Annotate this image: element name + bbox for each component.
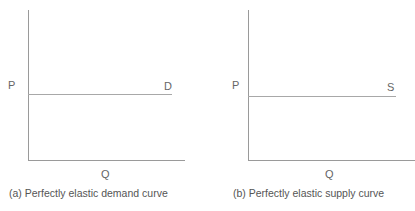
price-axis-label: P [8,80,15,91]
quantity-axis-label: Q [101,169,110,180]
supply-panel: P S Q (b) Perfectly elastic supply curve [207,0,415,211]
quantity-axis-label: Q [325,169,334,180]
demand-caption: (a) Perfectly elastic demand curve [9,188,168,199]
demand-curve-label: D [164,81,172,92]
price-axis-label: P [232,80,239,91]
supply-curve-label: S [387,82,394,93]
supply-plot [207,0,415,211]
supply-caption: (b) Perfectly elastic supply curve [233,188,384,199]
demand-panel: P D Q (a) Perfectly elastic demand curve [0,0,207,211]
